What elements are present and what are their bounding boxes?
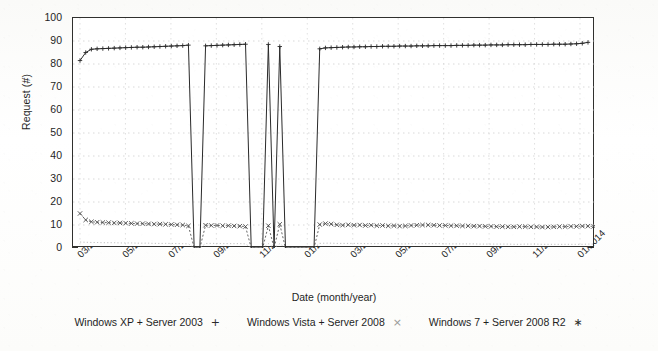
series-point: [346, 223, 350, 227]
legend-item-marker-icon: ×: [392, 317, 403, 328]
y-tick-label: 60: [22, 103, 62, 115]
series-point: [569, 42, 573, 46]
series-point: [318, 47, 322, 51]
y-tick-label: 90: [22, 34, 62, 46]
series-point: [175, 44, 179, 48]
series-point: [426, 44, 430, 48]
series-point: [101, 46, 105, 50]
series-point: [455, 43, 459, 47]
series-point: [323, 46, 327, 50]
series-point: [169, 44, 173, 48]
legend-item: Windows Vista + Server 2008×: [247, 316, 403, 328]
series-point: [112, 46, 116, 50]
series-point: [163, 222, 167, 226]
series-point: [586, 224, 590, 228]
series-point: [329, 45, 333, 49]
series-point: [243, 42, 247, 46]
series-point: [546, 225, 550, 229]
series-point: [380, 44, 384, 48]
series-point: [363, 45, 367, 49]
series-point: [152, 222, 156, 226]
series-point: [220, 43, 224, 47]
series-point: [118, 46, 122, 50]
series-point: [517, 42, 521, 46]
series-point: [129, 45, 133, 49]
y-tick-label: 100: [22, 11, 62, 23]
y-tick-label: 30: [22, 172, 62, 184]
series-point: [432, 43, 436, 47]
series-point: [546, 42, 550, 46]
series-point: [141, 45, 145, 49]
series-line: [80, 214, 594, 249]
legend-item-marker-icon: ∗: [573, 317, 584, 328]
series-point: [472, 43, 476, 47]
series-point: [146, 45, 150, 49]
series-point: [523, 42, 527, 46]
series-point: [340, 45, 344, 49]
series-point: [409, 44, 413, 48]
series-point: [557, 42, 561, 46]
series-point: [460, 43, 464, 47]
chart-legend: Windows XP + Server 2003+Windows Vista +…: [0, 316, 658, 328]
series-point: [112, 221, 116, 225]
series-point: [375, 44, 379, 48]
series-point: [123, 45, 127, 49]
series-point: [266, 42, 270, 46]
series-point: [84, 218, 88, 222]
y-tick-label: 40: [22, 149, 62, 161]
series-point: [158, 44, 162, 48]
series-point: [466, 224, 470, 228]
legend-item-label: Windows Vista + Server 2008: [247, 316, 385, 328]
legend-item: Windows 7 + Server 2008 R2∗: [429, 316, 584, 328]
series-point: [203, 44, 207, 48]
y-tick-label: 0: [22, 241, 62, 253]
series-point: [563, 42, 567, 46]
series-point: [89, 47, 93, 51]
series-point: [477, 43, 481, 47]
legend-item: Windows XP + Server 2003+: [74, 316, 221, 328]
series-point: [534, 42, 538, 46]
plot-area: [72, 17, 594, 247]
series-point: [163, 44, 167, 48]
series-point: [95, 47, 99, 51]
series-point: [494, 43, 498, 47]
series-point: [335, 45, 339, 49]
series-point: [466, 43, 470, 47]
series-point: [415, 44, 419, 48]
series-point: [346, 45, 350, 49]
series-point: [574, 42, 578, 46]
x-axis-label-text: Date (month/year): [282, 291, 377, 303]
series-point: [135, 45, 139, 49]
series-point: [449, 43, 453, 47]
series-point: [209, 43, 213, 47]
series-point: [209, 223, 213, 227]
series-point: [437, 223, 441, 227]
series-point: [586, 40, 590, 44]
series-point: [318, 222, 322, 226]
series-point: [220, 223, 224, 227]
series-point: [392, 44, 396, 48]
chart-figure: Request (#) 0102030405060708090100 03/20…: [0, 0, 658, 351]
series-line: [80, 242, 594, 248]
series-point: [397, 44, 401, 48]
legend-item-marker-icon: +: [210, 317, 221, 328]
series-point: [186, 43, 190, 47]
legend-item-label: Windows XP + Server 2003: [74, 316, 203, 328]
series-point: [232, 42, 236, 46]
series-point: [238, 42, 242, 46]
series-canvas: [73, 18, 595, 248]
series-point: [483, 43, 487, 47]
series-point: [369, 44, 373, 48]
series-point: [529, 42, 533, 46]
y-tick-label: 10: [22, 218, 62, 230]
y-tick-label: 70: [22, 80, 62, 92]
series-point: [386, 44, 390, 48]
series-point: [500, 43, 504, 47]
x-axis-label: Date (month/year): [0, 291, 658, 303]
legend-item-label: Windows 7 + Server 2008 R2: [429, 316, 566, 328]
y-tick-label: 20: [22, 195, 62, 207]
series-point: [437, 43, 441, 47]
series-point: [78, 211, 82, 215]
series-point: [506, 42, 510, 46]
y-tick-label: 50: [22, 126, 62, 138]
